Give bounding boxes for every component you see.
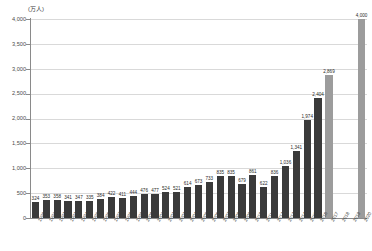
bar-slot: 679 <box>237 19 248 218</box>
y-tick-mark <box>26 218 30 219</box>
bar-slot: 476 <box>139 19 150 218</box>
bar[interactable] <box>314 98 321 218</box>
bar-value-label: 622 <box>260 181 268 186</box>
bar-slot: 1,974 <box>302 19 313 218</box>
bar-value-label: 861 <box>249 169 257 174</box>
bar-slot: 835 <box>215 19 226 218</box>
bar[interactable] <box>282 166 289 218</box>
bar-value-label: 422 <box>108 191 116 196</box>
y-tick-label: 1,500 <box>12 140 26 146</box>
y-tick-label: 4,000 <box>12 16 26 22</box>
bar-slot <box>345 19 356 218</box>
bar-slot: 347 <box>73 19 84 218</box>
bar[interactable] <box>325 75 332 218</box>
bar-value-label: 524 <box>162 186 170 191</box>
bar-value-label: 521 <box>173 186 181 191</box>
bar-slot: 835 <box>226 19 237 218</box>
bar-value-label: 673 <box>195 179 203 184</box>
bar-slot: 1,341 <box>291 19 302 218</box>
bar-value-label: 836 <box>271 170 279 175</box>
bar-slot: 341 <box>63 19 74 218</box>
bar[interactable] <box>358 19 365 218</box>
bar-value-label: 411 <box>119 192 126 197</box>
bar-slot: 521 <box>171 19 182 218</box>
y-tick-mark <box>26 143 30 144</box>
bar-value-label: 614 <box>184 181 192 186</box>
bar-slot: 622 <box>258 19 269 218</box>
bar-value-label: 477 <box>151 188 159 193</box>
x-axis-tick-labels: 1990199119921993199419951996199719981999… <box>30 219 367 251</box>
bar-slot: 477 <box>150 19 161 218</box>
bar-slot: 2,869 <box>324 19 335 218</box>
bar-slot: 861 <box>247 19 258 218</box>
y-tick-mark <box>26 19 30 20</box>
y-tick-mark <box>26 119 30 120</box>
bar-slot: 1,036 <box>280 19 291 218</box>
y-tick-label: 1,000 <box>12 165 26 171</box>
bar-slot: 836 <box>269 19 280 218</box>
bar-value-label: 324 <box>32 196 40 201</box>
y-tick-mark <box>26 69 30 70</box>
bar-value-label: 341 <box>64 195 72 200</box>
y-tick-mark <box>26 168 30 169</box>
bar-value-label: 733 <box>206 176 214 181</box>
y-tick-mark <box>26 94 30 95</box>
bar-value-label: 1,036 <box>280 160 292 165</box>
bar-series: 3243533583413473353844224114444764775245… <box>30 19 367 218</box>
y-tick-mark <box>26 44 30 45</box>
bar-slot: 2,404 <box>313 19 324 218</box>
bar-slot: 335 <box>84 19 95 218</box>
bar-slot: 614 <box>182 19 193 218</box>
bar-value-label: 2,404 <box>312 92 324 97</box>
y-tick-label: 500 <box>17 190 26 196</box>
bar-value-label: 476 <box>140 188 148 193</box>
y-tick-label: 3,500 <box>12 41 26 47</box>
bar-value-label: 384 <box>97 193 105 198</box>
bar-slot: 444 <box>128 19 139 218</box>
bar-slot: 422 <box>106 19 117 218</box>
bar-value-label: 347 <box>75 195 83 200</box>
bar-slot: 733 <box>204 19 215 218</box>
bar-slot: 4,000 <box>356 19 367 218</box>
bar-slot: 353 <box>41 19 52 218</box>
bar-value-label: 1,341 <box>291 145 303 150</box>
bar-value-label: 444 <box>129 190 137 195</box>
bar-value-label: 1,974 <box>301 114 313 119</box>
y-axis-tick-labels: 4,0003,5003,0002,5002,0001,5001,0005000 <box>0 0 26 251</box>
bar[interactable] <box>293 151 300 218</box>
bar-value-label: 335 <box>86 195 94 200</box>
y-tick-label: 3,000 <box>12 66 26 72</box>
bar-value-label: 835 <box>216 170 224 175</box>
bar-slot: 411 <box>117 19 128 218</box>
bar-value-label: 4,000 <box>356 13 368 18</box>
bar-slot: 384 <box>95 19 106 218</box>
bar-value-label: 358 <box>53 194 61 199</box>
bar-slot: 524 <box>160 19 171 218</box>
bar-slot: 358 <box>52 19 63 218</box>
bar[interactable] <box>32 202 39 218</box>
bar[interactable] <box>304 120 311 218</box>
bar-slot: 324 <box>30 19 41 218</box>
y-axis-unit-label: (万人) <box>28 4 44 13</box>
bar-value-label: 2,869 <box>323 69 335 74</box>
bar-value-label: 835 <box>227 170 235 175</box>
bar-slot: 673 <box>193 19 204 218</box>
bar-value-label: 353 <box>42 194 50 199</box>
y-tick-mark <box>26 193 30 194</box>
bar-value-label: 679 <box>238 178 246 183</box>
bar-slot <box>334 19 345 218</box>
y-tick-label: 2,500 <box>12 90 26 96</box>
y-tick-label: 2,000 <box>12 115 26 121</box>
